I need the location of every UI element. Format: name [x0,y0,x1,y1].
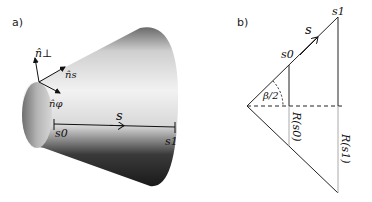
n-phi-label: n̂φ [49,98,62,109]
panel-b-label: b) [237,16,248,29]
n-perp-arrow [35,58,39,82]
s-label: s [116,108,123,123]
n-perp-label: n̂⊥ [35,47,52,60]
panel-b: b) β/2 s s0 s1 R(s0) R(s1) [237,5,352,193]
panel-a-label: a) [12,16,23,29]
panel-a: a) n̂⊥ n̂s n̂φ s s0 s1 [12,16,178,186]
s1-label: s1 [165,135,178,148]
n-s-label: n̂s [65,69,77,80]
s1-label-b: s1 [332,5,345,18]
figure: a) n̂⊥ n̂s n̂φ s s0 s1 b) β/2 s s [0,0,372,202]
s-arrow [300,37,318,55]
s0-label: s0 [55,127,68,140]
cone-cap [22,82,52,148]
r-s1-label: R(s1) [339,133,352,164]
upper-generator-line [247,17,338,106]
s0-label-b: s0 [281,48,294,61]
r-s0-label: R(s0) [290,111,303,142]
angle-label: β/2 [262,90,279,101]
s-label-b: s [305,22,312,37]
